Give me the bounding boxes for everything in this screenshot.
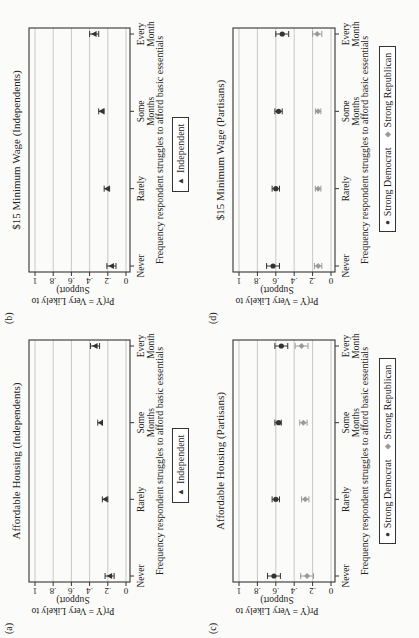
legend-marker-icon: ▲ <box>176 177 185 185</box>
data-point <box>276 31 289 37</box>
legend-label: Independent <box>175 435 186 484</box>
circle-marker-icon <box>276 109 281 114</box>
y-tick-label: 0 <box>328 276 333 286</box>
y-tick-label: 0 <box>123 276 128 286</box>
y-tick-label: 1 <box>33 276 38 286</box>
plot-frame <box>29 28 130 272</box>
data-point <box>272 186 279 192</box>
legend: ●Strong Democrat◆Strong Republican <box>379 358 396 544</box>
data-point <box>104 186 110 192</box>
y-tick-label: .2 <box>309 276 316 286</box>
data-point <box>267 263 280 269</box>
triangle-marker-icon <box>91 31 97 37</box>
circle-marker-icon <box>279 343 284 348</box>
legend-marker-icon: ● <box>383 532 392 537</box>
legend-marker-icon: ● <box>383 220 392 225</box>
x-category-label: Every <box>136 334 146 357</box>
y-tick-label: 1 <box>33 586 38 596</box>
x-category-label: Rarely <box>136 176 146 202</box>
y-tick-label: .6 <box>272 276 279 286</box>
y-tick-label: 1 <box>237 276 242 286</box>
x-category-label: Never <box>341 564 351 588</box>
x-axis-title: Frequency respondent struggles to afford… <box>359 340 370 582</box>
triangle-marker-icon <box>104 186 110 192</box>
legend-marker-icon: ◆ <box>383 443 392 449</box>
legend-item: ◆Strong Republican <box>382 53 393 138</box>
legend: ▲Independent <box>172 117 189 192</box>
data-point <box>91 343 100 349</box>
legend-label: Independent <box>175 124 186 173</box>
plot-frame <box>233 340 335 582</box>
y-tick-label: .2 <box>104 586 111 596</box>
x-category-label: Every <box>136 22 146 45</box>
data-point <box>272 496 279 502</box>
y-tick-label: .2 <box>309 586 316 596</box>
triangle-marker-icon <box>98 108 104 114</box>
circle-marker-icon <box>276 420 281 425</box>
y-tick-label: .4 <box>86 586 93 596</box>
x-category-label: Never <box>136 254 146 278</box>
data-point <box>275 343 288 349</box>
triangle-marker-icon <box>92 343 98 349</box>
data-point <box>301 573 314 579</box>
legend-label: Strong Republican <box>382 53 393 128</box>
data-point <box>314 263 321 269</box>
data-point <box>102 496 108 502</box>
circle-marker-icon <box>270 263 275 268</box>
x-category-label: Never <box>341 254 351 278</box>
y-tick-label: 1 <box>237 586 242 596</box>
legend-item: ▲Independent <box>175 124 186 185</box>
diamond-marker-icon <box>304 573 310 579</box>
legend-item: ●Strong Democrat <box>382 148 393 225</box>
x-axis-title: Frequency respondent struggles to afford… <box>154 340 165 582</box>
panel-d-minimum-wage-partisans: (d) $15 Minimum Wage (Partisans) Pr(Y = … <box>204 9 409 328</box>
y-tick-label: .8 <box>254 276 261 286</box>
diamond-marker-icon <box>315 108 321 114</box>
legend-marker-icon: ▲ <box>176 488 185 496</box>
circle-marker-icon <box>271 573 276 578</box>
x-category-label: Some <box>136 101 146 123</box>
data-point <box>90 31 99 37</box>
x-category-label: Some <box>341 412 351 434</box>
x-axis-title: Frequency respondent struggles to afford… <box>154 28 165 272</box>
panel-b-minimum-wage-independents: (b) $15 Minimum Wage (Independents) Pr(Y… <box>0 9 205 328</box>
data-point <box>98 420 104 426</box>
x-category-label: Every <box>341 22 351 45</box>
y-tick-label: .8 <box>49 276 56 286</box>
y-tick-label: .4 <box>290 586 297 596</box>
data-point <box>315 108 321 114</box>
x-category-label: Rarely <box>341 176 351 202</box>
data-point <box>315 186 321 192</box>
data-point <box>105 573 114 579</box>
x-category-label: Every <box>341 334 351 357</box>
triangle-marker-icon <box>98 420 104 426</box>
x-axis-title: Frequency respondent struggles to afford… <box>359 28 370 272</box>
data-point <box>295 343 308 349</box>
figure-caption-cutoff <box>408 18 419 618</box>
y-tick-label: .6 <box>68 586 75 596</box>
legend-marker-icon: ◆ <box>383 131 392 137</box>
diamond-marker-icon <box>314 31 320 37</box>
data-point <box>300 420 307 426</box>
plot-frame <box>29 340 130 582</box>
y-tick-label: .4 <box>290 276 297 286</box>
circle-marker-icon <box>273 497 278 502</box>
panel-a-affordable-housing-independents: (a) Affordable Housing (Independents) Pr… <box>0 319 205 638</box>
plot-frame <box>233 28 335 272</box>
triangle-marker-icon <box>102 496 108 502</box>
y-tick-label: 0 <box>328 586 333 596</box>
y-tick-label: .8 <box>254 586 261 596</box>
data-point <box>268 573 281 579</box>
x-category-label: Some <box>136 412 146 434</box>
data-point <box>98 108 104 114</box>
circle-marker-icon <box>273 186 278 191</box>
triangle-marker-icon <box>108 263 114 269</box>
legend-item: ●Strong Democrat <box>382 460 393 537</box>
panel-c-affordable-housing-partisans: (c) Affordable Housing (Partisans) Pr(Y … <box>204 319 409 638</box>
x-category-label: Rarely <box>136 486 146 512</box>
legend-label: Strong Democrat <box>382 460 393 529</box>
legend-item: ▲Independent <box>175 435 186 496</box>
x-category-label: Rarely <box>341 486 351 512</box>
legend: ●Strong Democrat◆Strong Republican <box>379 46 396 232</box>
y-tick-label: 0 <box>123 586 128 596</box>
